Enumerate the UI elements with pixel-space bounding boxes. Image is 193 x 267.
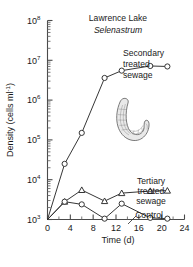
data-point-circle bbox=[79, 130, 84, 135]
svg-text:sewage: sewage bbox=[136, 196, 166, 206]
svg-text:treated: treated bbox=[123, 59, 150, 69]
data-point-circle bbox=[79, 202, 84, 207]
annot-secondary-line1: Secondary bbox=[123, 48, 165, 58]
data-point-circle bbox=[102, 75, 107, 80]
y-tick-label: 106 bbox=[27, 93, 41, 105]
svg-text:Density (cells ml-1): Density (cells ml-1) bbox=[4, 83, 15, 157]
annot-control-label: Control bbox=[135, 210, 163, 220]
chart-canvas: 103104105106107108 04812162024 Density (… bbox=[0, 0, 193, 267]
y-axis-title-suffix: ) bbox=[5, 83, 15, 86]
data-point-circle bbox=[165, 64, 170, 69]
data-point-circle bbox=[102, 216, 107, 221]
annot-tertiary-line2: treated bbox=[138, 186, 165, 196]
selenastrum-cell-drawing bbox=[117, 98, 149, 140]
svg-text:treated: treated bbox=[138, 186, 165, 196]
y-tick-label: 104 bbox=[27, 173, 41, 185]
annotation-secondary: Secondary treated sewage bbox=[123, 48, 165, 80]
data-point-circle bbox=[119, 201, 124, 206]
annotation-control: Control bbox=[128, 210, 163, 224]
y-axis-title-text: Density (cells ml bbox=[5, 92, 15, 158]
data-point-triangle bbox=[101, 198, 107, 204]
x-axis-title: Time (d) bbox=[101, 235, 134, 245]
svg-text:Control: Control bbox=[135, 210, 163, 220]
chart-title: Lawrence Lake bbox=[89, 13, 148, 23]
x-tick-label: 16 bbox=[134, 223, 144, 233]
annot-tertiary-line1: Tertiary bbox=[137, 176, 166, 186]
x-tick-label: 4 bbox=[68, 223, 73, 233]
svg-text:Tertiary: Tertiary bbox=[137, 176, 166, 186]
x-tick-label: 24 bbox=[179, 223, 189, 233]
data-point-circle bbox=[165, 216, 170, 221]
y-tick-label: 103 bbox=[27, 213, 41, 225]
svg-text:Secondary: Secondary bbox=[123, 48, 165, 58]
x-axis-tick-labels: 04812162024 bbox=[45, 223, 190, 233]
y-tick-label: 108 bbox=[27, 14, 41, 26]
data-point-circle bbox=[62, 161, 67, 166]
data-point-triangle bbox=[79, 187, 85, 193]
x-tick-label: 8 bbox=[91, 223, 96, 233]
y-tick-label: 107 bbox=[27, 54, 41, 66]
x-tick-label: 12 bbox=[111, 223, 121, 233]
annot-secondary-line3: sewage bbox=[123, 70, 153, 80]
y-axis-tick-labels: 103104105106107108 bbox=[27, 14, 41, 225]
x-tick-label: 0 bbox=[45, 223, 50, 233]
x-tick-label: 20 bbox=[157, 223, 167, 233]
annotation-tertiary: Tertiary treated sewage bbox=[136, 176, 166, 206]
y-axis-ticks bbox=[48, 21, 53, 220]
svg-text:sewage: sewage bbox=[123, 70, 153, 80]
figure-container: 103104105106107108 04812162024 Density (… bbox=[0, 0, 193, 267]
annot-tertiary-line3: sewage bbox=[136, 196, 166, 206]
y-tick-label: 105 bbox=[27, 133, 41, 145]
annot-secondary-line2: treated bbox=[123, 59, 150, 69]
data-point-circle bbox=[62, 199, 67, 204]
chart-subtitle: Selenastrum bbox=[94, 25, 142, 35]
y-axis-title: Density (cells ml-1) bbox=[4, 83, 15, 157]
